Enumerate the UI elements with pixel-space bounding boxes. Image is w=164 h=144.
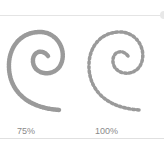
- top-divider: [0, 15, 164, 16]
- bottom-divider: [0, 138, 164, 139]
- brush-preview-75: [2, 22, 77, 117]
- spiral-dots-icon: [82, 22, 157, 117]
- preview-label-75: 75%: [17, 126, 35, 136]
- brush-preview-100: [82, 22, 157, 117]
- spiral-stroke-icon: [2, 22, 77, 117]
- preview-label-100: 100%: [95, 126, 118, 136]
- slider-handle[interactable]: [160, 11, 164, 19]
